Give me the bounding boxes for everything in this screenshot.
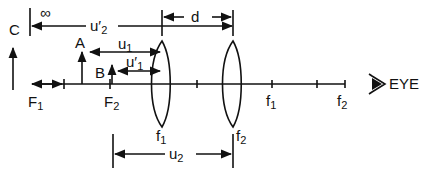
label-d: d	[191, 8, 199, 25]
label-u1-prime: u′1	[126, 53, 143, 72]
label-lens-f2: f2	[236, 127, 246, 146]
label-a: A	[75, 34, 85, 51]
label-F1-left: F1	[28, 93, 43, 112]
label-lens-f1: f1	[156, 127, 166, 146]
label-infinity: ∞	[40, 4, 51, 21]
label-f1-right: f1	[266, 92, 276, 111]
label-c: C	[9, 21, 20, 38]
label-u1: u1	[118, 35, 132, 54]
optics-diagram: C A B u1 u′1 ∞ u′2 d F1 F2 f1 f2 f1 f2 u…	[0, 0, 422, 175]
label-eye: EYE	[389, 75, 419, 92]
label-u2: u2	[169, 145, 183, 164]
label-f2-right: f2	[337, 92, 347, 111]
label-F2-left: F2	[104, 93, 119, 112]
eye-icon	[369, 74, 385, 94]
label-b: B	[95, 64, 105, 81]
label-u2-prime: u′2	[90, 17, 107, 36]
